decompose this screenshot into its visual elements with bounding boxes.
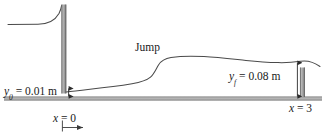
label-yf-sub: f <box>234 78 236 87</box>
upstream-water-surface <box>8 6 62 25</box>
label-x-start: x = 0 <box>53 113 76 125</box>
sluice-gate-left <box>62 5 67 94</box>
label-y0-rest: = 0.01 m <box>13 85 57 97</box>
hydraulic-jump-figure: y0 = 0.01 m yf = 0.08 m x = 0 x = 3 Jump <box>0 0 326 135</box>
label-x-end-rest: = 3 <box>294 102 312 114</box>
downstream-water-surface <box>66 56 320 92</box>
label-x-end: x = 3 <box>289 103 312 115</box>
label-y0: y0 = 0.01 m <box>4 86 57 98</box>
label-y0-sub: 0 <box>9 93 13 102</box>
label-yf-rest: = 0.08 m <box>236 70 280 82</box>
label-x-start-rest: = 0 <box>58 112 76 124</box>
figure-canvas <box>0 0 326 135</box>
label-jump: Jump <box>135 42 160 54</box>
label-yf: yf = 0.08 m <box>229 71 280 83</box>
sluice-gate-right <box>300 68 305 98</box>
